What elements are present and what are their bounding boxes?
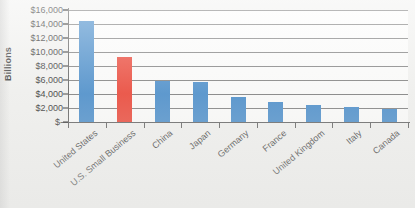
y-tick-label: $16,000 [30,5,63,15]
bar-chart-figure: Billions $16,000$14,000$12,000$10,000$8,… [0,0,415,208]
x-axis-label-text: France [260,128,288,154]
y-tick-mark [63,108,68,109]
x-axis-label-text: Germany [216,128,251,159]
x-axis-label-text: Italy [345,128,364,146]
y-tick-mark [63,122,68,123]
y-tick-mark [63,24,68,25]
bar-united-kingdom[interactable] [306,105,321,123]
y-axis-title: Billions [0,0,16,128]
x-axis-label-text: China [150,128,174,151]
y-tick-mark [63,38,68,39]
y-tick-label: $8,000 [35,61,63,71]
y-tick-label: $14,000 [30,19,63,29]
x-axis-label-text: Canada [371,128,402,156]
bar-canada[interactable] [382,109,397,122]
y-tick-label: $12,000 [30,33,63,43]
y-tick-mark [63,66,68,67]
y-tick-mark [63,94,68,95]
y-tick-label: $10,000 [30,47,63,57]
x-axis-category-labels: United StatesU.S. Small BusinessChinaJap… [0,128,415,208]
y-tick-label: $4,000 [35,89,63,99]
x-axis-label-text: Japan [187,128,212,151]
y-tick-mark [63,52,68,53]
y-tick-label: $2,000 [35,103,63,113]
y-axis-tick-labels: $16,000$14,000$12,000$10,000$8,000$6,000… [16,5,66,127]
bar-japan[interactable] [193,82,208,122]
bar-germany[interactable] [231,97,246,122]
y-tick-mark [63,10,68,11]
x-axis-label-text: U.S. Small Business [68,128,137,188]
bar-united-states[interactable] [79,21,94,123]
y-axis-title-label: Billions [3,47,13,81]
y-tick-mark [63,80,68,81]
y-tick-label: $6,000 [35,75,63,85]
